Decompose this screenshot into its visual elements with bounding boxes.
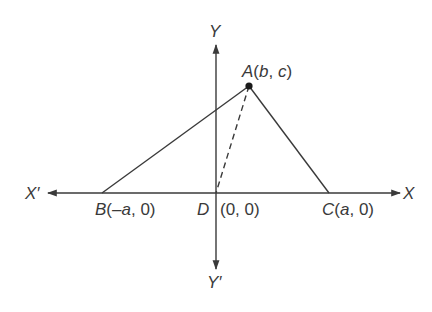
segment-ac [249, 86, 329, 193]
point-d-coords: (0, 0) [220, 200, 260, 219]
x-axis-label: X [402, 184, 415, 203]
segment-ab [102, 86, 249, 193]
coordinate-diagram: Y Y′ X′ X A(b, c) B(–a, 0) D (0, 0) C(a,… [0, 0, 432, 312]
median-ad [216, 86, 249, 193]
point-c-label: C(a, 0) [322, 200, 374, 219]
point-b-label: B(–a, 0) [95, 200, 156, 219]
point-a-dot [245, 82, 252, 89]
point-a-label: A(b, c) [241, 62, 292, 81]
y-neg-axis-label: Y′ [207, 273, 222, 292]
y-axis-label: Y [209, 22, 222, 41]
x-neg-axis-label: X′ [24, 184, 40, 203]
point-d-name: D [197, 200, 209, 219]
